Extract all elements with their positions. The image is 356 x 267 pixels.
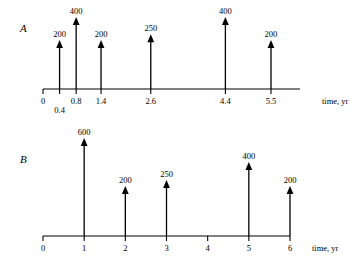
axis-tick-label: 1.4	[96, 96, 107, 106]
arrow-head	[73, 17, 80, 25]
axis-tick-label: 0	[41, 243, 45, 253]
arrow-head	[222, 17, 229, 25]
arrow-value-label: 200	[53, 29, 66, 39]
cash-flow-arrow: 250	[160, 169, 173, 237]
cash-flow-arrow: 200	[53, 29, 66, 90]
panel-b-chart: 0123456time, yr600200250400200	[0, 128, 356, 267]
axis-tick-label: 4.4	[220, 96, 231, 106]
arrow-head	[163, 180, 170, 188]
arrow-head	[98, 40, 105, 48]
arrow-value-label: 400	[70, 6, 83, 16]
axis-tick-label: 6	[288, 243, 292, 253]
cash-flow-arrow: 400	[242, 151, 255, 237]
cash-flow-diagram-figure: A B 00.40.81.42.64.45.5time, yr200400200…	[0, 0, 356, 267]
cash-flow-arrow: 250	[144, 23, 157, 89]
axis-tick-label: 1	[82, 243, 86, 253]
arrow-head	[56, 40, 63, 48]
arrow-value-label: 250	[160, 169, 173, 179]
arrow-head	[287, 186, 294, 194]
axis-tick-label: 0.4	[54, 105, 65, 115]
axis-tick-label: 0	[41, 96, 45, 106]
axis-tick-label: 5.5	[266, 96, 277, 106]
arrow-head	[147, 34, 154, 42]
arrow-value-label: 200	[95, 29, 108, 39]
cash-flow-arrow: 200	[95, 29, 108, 90]
axis-tick-label: 4	[206, 243, 211, 253]
panel-a-chart: 00.40.81.42.64.45.5time, yr2004002002504…	[0, 0, 356, 130]
arrow-value-label: 200	[119, 175, 132, 185]
axis-title: time, yr	[312, 243, 339, 253]
cash-flow-arrow: 400	[70, 6, 83, 90]
cash-flow-arrow: 400	[219, 6, 232, 90]
arrow-value-label: 200	[265, 29, 278, 39]
axis-tick-label: 2.6	[145, 96, 156, 106]
cash-flow-arrow: 600	[78, 128, 91, 236]
arrow-head	[245, 162, 252, 170]
cash-flow-arrow: 200	[119, 175, 132, 237]
arrow-head	[81, 138, 88, 146]
arrow-value-label: 600	[78, 128, 91, 137]
axis-tick-label: 2	[123, 243, 127, 253]
arrow-head	[268, 40, 275, 48]
axis-tick-label: 5	[247, 243, 251, 253]
arrow-value-label: 200	[284, 175, 297, 185]
axis-title: time, yr	[322, 96, 349, 106]
arrow-value-label: 250	[144, 23, 157, 33]
cash-flow-arrow: 200	[284, 175, 297, 237]
cash-flow-arrow: 200	[265, 29, 278, 90]
arrow-head	[122, 186, 129, 194]
arrow-value-label: 400	[242, 151, 255, 161]
axis-tick-label: 0.8	[71, 96, 82, 106]
arrow-value-label: 400	[219, 6, 232, 16]
axis-tick-label: 3	[164, 243, 168, 253]
